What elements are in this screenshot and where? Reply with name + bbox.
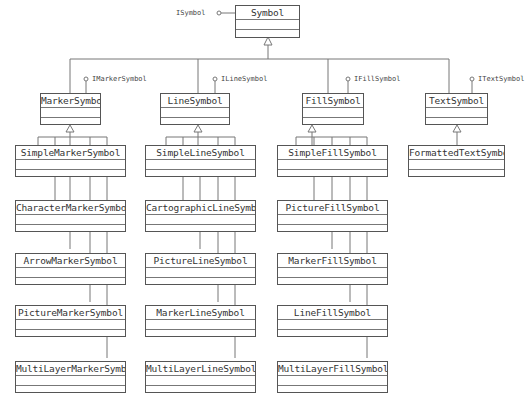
operations-compartment — [278, 170, 387, 178]
class-symbol[interactable]: Symbol — [235, 5, 300, 38]
attributes-compartment — [303, 108, 363, 118]
attributes-compartment — [236, 20, 299, 30]
class-name: ArrowMarkerSymbol — [16, 254, 125, 268]
operations-compartment — [146, 225, 255, 233]
class-name: MultiLayerMarkerSymbol — [16, 362, 125, 376]
class-name: PictureMarkerSymbol — [16, 306, 125, 320]
operations-compartment — [16, 330, 125, 338]
operations-compartment — [161, 118, 229, 126]
class-markerfillsymbol[interactable]: MarkerFillSymbol — [277, 253, 388, 285]
class-markersymbol[interactable]: MarkerSymbol — [40, 93, 101, 125]
class-name: FillSymbol — [303, 94, 363, 108]
attributes-compartment — [426, 108, 487, 118]
uml-class-diagram: ISymbol Symbol IMarkerSymbol ILineSymbol… — [0, 0, 532, 406]
class-name: SimpleMarkerSymbol — [16, 146, 125, 160]
class-linesymbol[interactable]: LineSymbol — [160, 93, 230, 125]
class-textsymbol[interactable]: TextSymbol — [425, 93, 488, 125]
operations-compartment — [16, 278, 125, 286]
attributes-compartment — [161, 108, 229, 118]
class-fillsymbol[interactable]: FillSymbol — [302, 93, 364, 125]
operations-compartment — [146, 170, 255, 178]
attributes-compartment — [278, 268, 387, 278]
attributes-compartment — [146, 268, 255, 278]
class-simplefillsymbol[interactable]: SimpleFillSymbol — [277, 145, 388, 177]
class-name: TextSymbol — [426, 94, 487, 108]
operations-compartment — [278, 386, 387, 394]
class-charactermarkersymbol[interactable]: CharacterMarkerSymbol — [15, 200, 126, 232]
class-multilayermarkersymbol[interactable]: MultiLayerMarkerSymbol — [15, 361, 126, 393]
attributes-compartment — [146, 215, 255, 225]
attributes-compartment — [278, 376, 387, 386]
operations-compartment — [426, 118, 487, 126]
operations-compartment — [409, 170, 504, 178]
operations-compartment — [146, 278, 255, 286]
class-linefillsymbol[interactable]: LineFillSymbol — [277, 305, 388, 337]
class-name: MarkerFillSymbol — [278, 254, 387, 268]
class-markerlinesymbol[interactable]: MarkerLineSymbol — [145, 305, 256, 337]
attributes-compartment — [278, 320, 387, 330]
ilinesymbol-interface-label: ILineSymbol — [221, 75, 267, 83]
class-name: MarkerSymbol — [41, 94, 100, 108]
class-arrowmarkersymbol[interactable]: ArrowMarkerSymbol — [15, 253, 126, 285]
class-name: CartographicLineSymbol — [146, 201, 255, 215]
attributes-compartment — [16, 160, 125, 170]
class-cartographiclinesymbol[interactable]: CartographicLineSymbol — [145, 200, 256, 232]
class-name: SimpleFillSymbol — [278, 146, 387, 160]
attributes-compartment — [278, 215, 387, 225]
class-name: CharacterMarkerSymbol — [16, 201, 125, 215]
attributes-compartment — [16, 268, 125, 278]
class-name: PictureFillSymbol — [278, 201, 387, 215]
class-name: LineFillSymbol — [278, 306, 387, 320]
operations-compartment — [146, 386, 255, 394]
attributes-compartment — [16, 215, 125, 225]
operations-compartment — [41, 118, 100, 126]
class-name: FormattedTextSymbol — [409, 146, 504, 160]
attributes-compartment — [278, 160, 387, 170]
attributes-compartment — [41, 108, 100, 118]
class-name: LineSymbol — [161, 94, 229, 108]
class-name: MultiLayerFillSymbol — [278, 362, 387, 376]
class-simplelinesymbol[interactable]: SimpleLineSymbol — [145, 145, 256, 177]
attributes-compartment — [146, 376, 255, 386]
class-multilayerfillsymbol[interactable]: MultiLayerFillSymbol — [277, 361, 388, 393]
operations-compartment — [16, 170, 125, 178]
class-multilayerlinesymbol[interactable]: MultiLayerLineSymbol — [145, 361, 256, 393]
operations-compartment — [278, 225, 387, 233]
operations-compartment — [278, 278, 387, 286]
attributes-compartment — [16, 376, 125, 386]
operations-compartment — [16, 225, 125, 233]
ifillsymbol-interface-label: IFillSymbol — [354, 75, 400, 83]
operations-compartment — [236, 30, 299, 38]
operations-compartment — [16, 386, 125, 394]
attributes-compartment — [409, 160, 504, 170]
class-name: MultiLayerLineSymbol — [146, 362, 255, 376]
class-name: SimpleLineSymbol — [146, 146, 255, 160]
attributes-compartment — [16, 320, 125, 330]
class-name: MarkerLineSymbol — [146, 306, 255, 320]
itextsymbol-interface-label: ITextSymbol — [478, 75, 524, 83]
isymbol-interface-label: ISymbol — [176, 9, 206, 17]
attributes-compartment — [146, 320, 255, 330]
class-picturemarkersymbol[interactable]: PictureMarkerSymbol — [15, 305, 126, 337]
attributes-compartment — [146, 160, 255, 170]
class-formattedtextsymbol[interactable]: FormattedTextSymbol — [408, 145, 505, 177]
imarkersymbol-interface-label: IMarkerSymbol — [92, 75, 147, 83]
class-name: PictureLineSymbol — [146, 254, 255, 268]
class-picturefillsymbol[interactable]: PictureFillSymbol — [277, 200, 388, 232]
class-picturelinesymbol[interactable]: PictureLineSymbol — [145, 253, 256, 285]
operations-compartment — [303, 118, 363, 126]
class-simplemarkersymbol[interactable]: SimpleMarkerSymbol — [15, 145, 126, 177]
class-name: Symbol — [236, 6, 299, 20]
operations-compartment — [278, 330, 387, 338]
operations-compartment — [146, 330, 255, 338]
